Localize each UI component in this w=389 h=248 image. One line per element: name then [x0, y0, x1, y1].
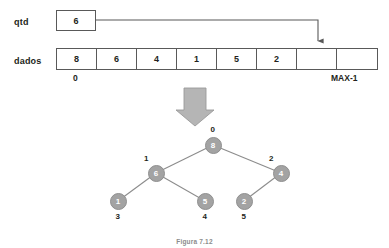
tree-node-index-2: 2 [269, 154, 273, 163]
array-cell-5: 2 [257, 49, 297, 69]
tree-node-index-0: 0 [211, 125, 215, 134]
dados-label: dados [14, 56, 42, 66]
tree-node-5: 2 [236, 193, 253, 210]
qtd-value-box: 6 [56, 10, 96, 31]
qtd-value: 6 [73, 16, 78, 26]
tree-node-index-5: 5 [242, 212, 246, 221]
array-cell-1: 6 [97, 49, 137, 69]
qtd-label: qtd [14, 17, 29, 27]
array-cell-7 [337, 49, 377, 69]
tree-node-2: 4 [273, 165, 290, 182]
array-cell-3: 1 [177, 49, 217, 69]
tree-node-index-3: 3 [116, 212, 120, 221]
tree-node-index-4: 4 [203, 212, 207, 221]
tree-edges [118, 145, 281, 201]
array-cell-4: 5 [217, 49, 257, 69]
qtd-pointer-path [96, 20, 318, 41]
tree-node-3: 1 [110, 193, 127, 210]
array-index-start: 0 [73, 73, 78, 83]
diagram-canvas [0, 0, 389, 248]
tree-edge-0-1 [156, 145, 213, 173]
array-cell-6 [297, 49, 337, 69]
array-cell-0: 8 [57, 49, 97, 69]
tree-node-1: 6 [148, 165, 165, 182]
tree-node-0: 8 [205, 137, 222, 154]
array-cell-2: 4 [137, 49, 177, 69]
array-index-end: MAX-1 [331, 73, 357, 83]
dados-array: 864152 [56, 48, 378, 70]
tree-node-index-1: 1 [144, 154, 148, 163]
transform-block-arrow [176, 88, 214, 126]
figure-caption: Figura 7.12 [0, 238, 389, 245]
tree-node-4: 5 [197, 193, 214, 210]
